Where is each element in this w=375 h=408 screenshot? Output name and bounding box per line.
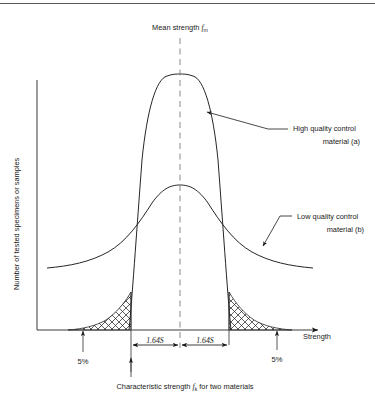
annotation-low-quality-line2: material (b) (327, 225, 364, 234)
dimension-label-left: 1.64S (146, 336, 164, 345)
figure-container: Mean strength fm Number of tested specim… (0, 0, 375, 408)
mean-strength-label: Mean strength fm (152, 23, 208, 33)
annotation-low-quality-line1: Low quality control (297, 212, 359, 221)
dimension-label-right: 1.64S (196, 336, 214, 345)
distribution-diagram: Mean strength fm Number of tested specim… (0, 0, 375, 408)
x-axis-label: Strength (303, 332, 331, 341)
tail-right-percent-label: 5% (272, 355, 283, 364)
annotation-leader-low-quality (263, 216, 292, 246)
tail-left-percent-label: 5% (78, 357, 89, 366)
annotation-high-quality-line2: material (a) (323, 137, 360, 146)
upper-tail-shaded-region (229, 292, 292, 330)
annotation-high-quality-line1: High quality control (293, 124, 356, 133)
characteristic-strength-caption: Characteristic strength fk for two mater… (116, 382, 253, 392)
annotation-leader-high-quality (207, 112, 288, 129)
y-axis-label: Number of tested specimens or samples (12, 157, 21, 290)
lower-tail-shaded-region (68, 292, 131, 330)
